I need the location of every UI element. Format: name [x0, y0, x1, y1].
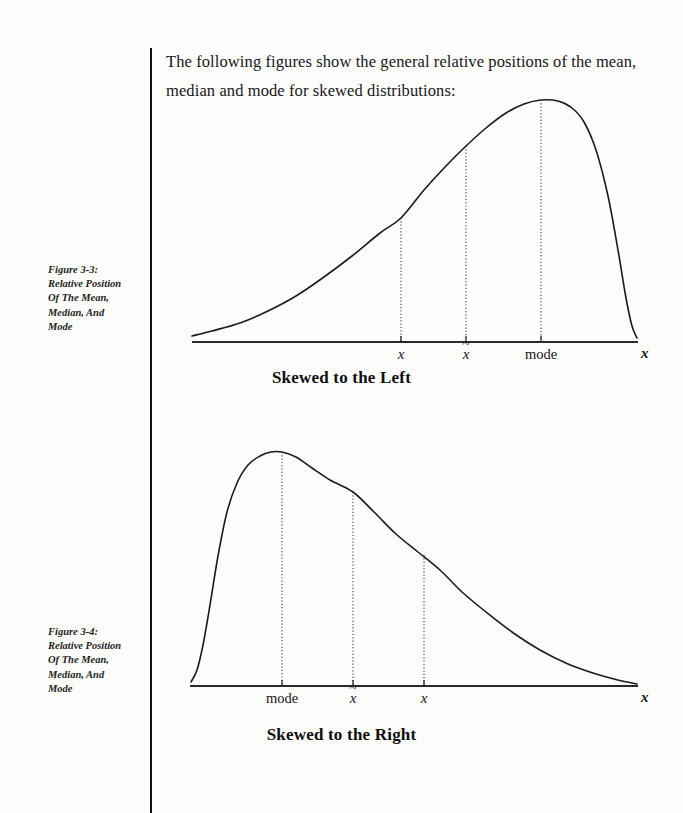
chart-title-skewed-left: Skewed to the Left: [0, 368, 683, 388]
distribution-curve: [191, 451, 637, 684]
chart-skewed-left: [0, 86, 683, 386]
axis-label-mode-chart-1: mode: [501, 346, 581, 363]
axis-variable-label-chart-1: x: [641, 345, 649, 362]
axis-label-median-chart-2: x~: [313, 690, 393, 707]
axis-variable-label-chart-2: x: [641, 689, 649, 706]
axis-label-mode-chart-2: mode: [242, 690, 322, 707]
chart-skewed-right: [0, 432, 683, 762]
axis-label-median-chart-1: x~: [426, 346, 506, 363]
axis-label-mean-chart-2: x‾: [384, 690, 464, 707]
distribution-curve: [192, 100, 637, 338]
chart-title-skewed-right: Skewed to the Right: [0, 725, 683, 745]
document-page: The following figures show the general r…: [0, 0, 683, 813]
